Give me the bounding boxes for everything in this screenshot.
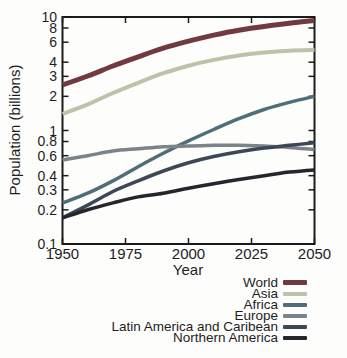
legend-line-sample-latin-america-and-caribean bbox=[283, 325, 307, 329]
y-tick-label: 0.6 bbox=[0, 148, 57, 164]
legend-line-sample-northern-america bbox=[283, 336, 307, 340]
y-tick-label: 0.2 bbox=[0, 202, 57, 218]
y-tick-label: 3 bbox=[0, 68, 57, 84]
legend-line-sample-africa bbox=[283, 303, 307, 307]
legend-item-northern-america: Northern America bbox=[173, 332, 307, 343]
series-line-northern-america bbox=[63, 170, 315, 218]
x-axis-title: Year bbox=[148, 261, 228, 278]
x-tick-label: 1975 bbox=[101, 246, 151, 262]
legend-line-sample-world bbox=[283, 280, 307, 285]
x-tick-label: 2000 bbox=[164, 246, 214, 262]
population-projection-figure: Population (billions) Year 108643210.80.… bbox=[0, 0, 347, 358]
x-tick-label: 2050 bbox=[290, 246, 340, 262]
chart-legend: WorldAsiaAfricaEuropeLatin America and C… bbox=[111, 277, 307, 343]
x-tick-label: 1950 bbox=[38, 246, 88, 262]
legend-line-sample-europe bbox=[283, 314, 307, 318]
y-tick-label: 6 bbox=[0, 34, 57, 50]
x-tick-label: 2025 bbox=[227, 246, 277, 262]
legend-label-northern-america: Northern America bbox=[173, 332, 278, 343]
y-tick-label: 2 bbox=[0, 88, 57, 104]
y-tick-label: 0.3 bbox=[0, 182, 57, 198]
legend-line-sample-asia bbox=[283, 292, 307, 296]
